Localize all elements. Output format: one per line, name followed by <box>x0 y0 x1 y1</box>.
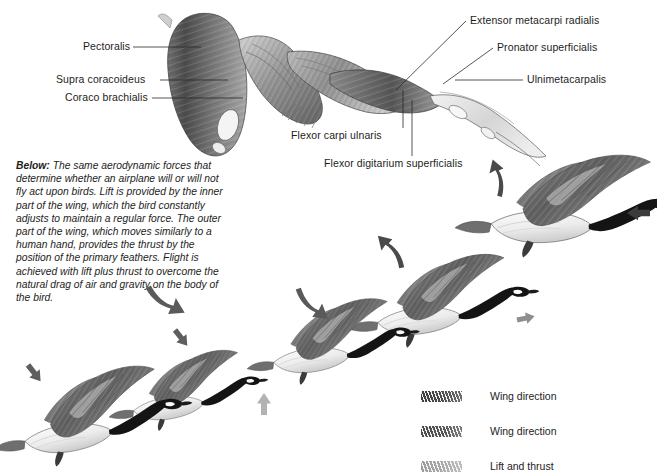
legend-swatch-wing-direction-1 <box>421 391 462 402</box>
arrow-lift-and-thrust-right-1 <box>516 311 536 326</box>
arrow-wing-direction-curve-1 <box>146 278 185 324</box>
legend-label-wing-direction-1: Wing direction <box>490 390 557 402</box>
goose-3 <box>240 293 424 391</box>
arrow-wing-direction-up-1 <box>378 232 404 271</box>
arrow-lift-and-thrust-up-1 <box>257 393 271 415</box>
legend-label-wing-direction-2: Wing direction <box>490 425 557 437</box>
legend-swatch-lift-and-thrust <box>421 461 462 472</box>
legend-label-lift-and-thrust: Lift and thrust <box>490 460 554 472</box>
legend-item-lift-and-thrust: Lift and thrust <box>421 454 651 474</box>
goose-5 <box>455 155 657 257</box>
figure-canvas: Pectoralis Supra coracoideus Coraco brac… <box>0 0 657 474</box>
legend-swatch-wing-direction-2 <box>421 426 462 437</box>
legend-item-wing-direction-1: Wing direction <box>421 384 651 408</box>
arrow-wing-direction-down-2 <box>170 326 192 350</box>
arrow-wing-direction-up-2 <box>483 160 511 198</box>
legend-item-wing-direction-2: Wing direction <box>421 419 651 443</box>
legend: Wing direction Wing direction Lift and t… <box>421 384 651 474</box>
arrow-wing-direction-down-1 <box>23 361 46 385</box>
